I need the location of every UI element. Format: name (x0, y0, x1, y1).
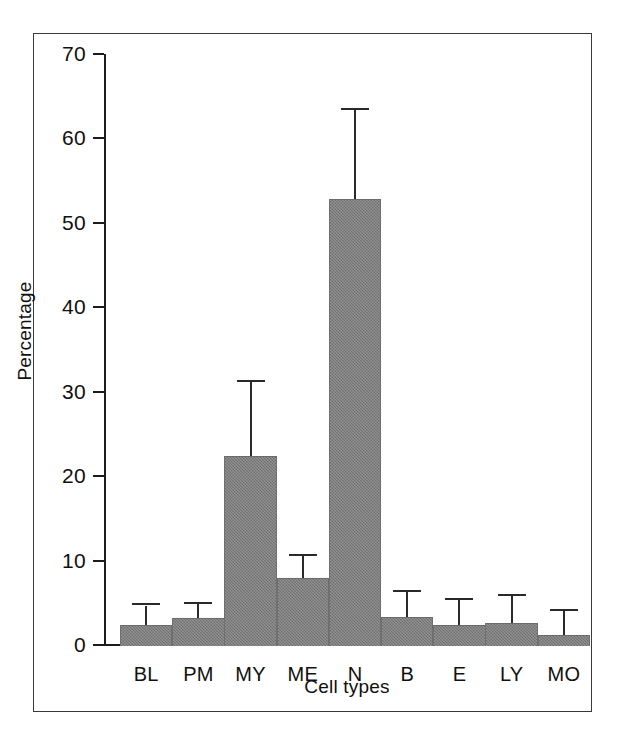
bar (433, 625, 486, 646)
error-bar-stem (250, 382, 252, 456)
y-axis-tick-label: 70 (40, 43, 86, 64)
error-bar-stem (406, 592, 408, 617)
error-bar-cap (132, 603, 160, 605)
y-axis-tick (93, 475, 104, 477)
y-axis-tick-label: 10 (40, 550, 86, 571)
bar (120, 625, 173, 646)
y-axis-tick-label: 30 (40, 381, 86, 402)
error-bar-cap (184, 602, 212, 604)
y-axis-tick (93, 391, 104, 393)
y-axis-tick (93, 560, 104, 562)
error-bar-cap (498, 594, 526, 596)
bar (277, 578, 330, 646)
error-bar-stem (197, 604, 199, 618)
chart-plot-area: 010203040506070 Percentage BLPMMYMENBELY… (0, 0, 621, 744)
y-axis-tick-label-wrap: 0 (38, 634, 86, 655)
y-axis-tick-label: 0 (40, 634, 86, 655)
y-axis-tick-label: 60 (40, 127, 86, 148)
y-axis-tick-label-wrap: 50 (38, 212, 86, 233)
error-bar-cap (237, 380, 265, 382)
error-bar-cap (445, 598, 473, 600)
y-axis-tick-label-wrap: 40 (38, 296, 86, 317)
y-axis-tick (93, 137, 104, 139)
y-axis-line (104, 54, 106, 646)
y-axis-tick-label-wrap: 30 (38, 381, 86, 402)
y-axis-tick-label-wrap: 70 (38, 43, 86, 64)
error-bar-cap (289, 554, 317, 556)
error-bar-cap (341, 108, 369, 110)
bar (172, 618, 225, 646)
error-bar-cap (550, 609, 578, 611)
bar (381, 617, 434, 646)
y-axis-tick-label: 20 (40, 465, 86, 486)
y-axis-tick-label: 40 (40, 296, 86, 317)
y-axis-tick-label: 50 (40, 212, 86, 233)
y-axis-tick-label-wrap: 60 (38, 127, 86, 148)
error-bar-stem (563, 611, 565, 635)
error-bar-stem (302, 556, 304, 578)
error-bar-stem (511, 596, 513, 623)
y-axis-tick (93, 222, 104, 224)
y-axis-tick-label-wrap: 10 (38, 550, 86, 571)
bar (224, 456, 277, 646)
bar (538, 635, 591, 646)
error-bar-cap (393, 590, 421, 592)
bar (485, 623, 538, 646)
error-bar-stem (145, 606, 147, 625)
error-bar-stem (458, 600, 460, 625)
bar (329, 199, 382, 646)
y-axis-tick (93, 644, 104, 646)
y-axis-title: Percentage (14, 251, 36, 411)
error-bar-stem (354, 110, 356, 199)
x-axis-title: Cell types (104, 676, 590, 698)
y-axis-tick (93, 306, 104, 308)
y-axis-tick-label-wrap: 20 (38, 465, 86, 486)
y-axis-tick (93, 53, 104, 55)
